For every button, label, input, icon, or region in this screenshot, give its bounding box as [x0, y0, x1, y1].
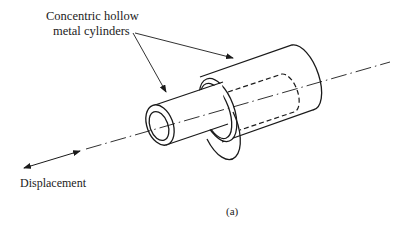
leader-to-outer-cylinder — [135, 33, 233, 58]
label-line-1: Concentric hollow — [46, 9, 139, 23]
leader-to-inner-cylinder — [133, 33, 166, 92]
cylinder-diagram: Concentric hollow metal cylinders — [0, 0, 404, 233]
label-line-2: metal cylinders — [53, 24, 130, 38]
displacement-arrow — [24, 151, 80, 168]
figure: Concentric hollow metal cylinders — [0, 0, 404, 233]
inner-cylinder — [141, 82, 228, 149]
figure-caption: (a) — [226, 205, 239, 218]
displacement-label: Displacement — [20, 176, 87, 190]
